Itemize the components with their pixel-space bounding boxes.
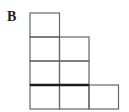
unit-square xyxy=(30,61,60,85)
staircase-squares-figure xyxy=(0,0,129,112)
unit-square xyxy=(30,13,60,37)
unit-square xyxy=(30,85,60,109)
unit-square xyxy=(89,85,119,109)
unit-square xyxy=(60,85,90,109)
figure-b-diagram: B xyxy=(0,0,129,112)
unit-square xyxy=(60,61,90,85)
unit-square xyxy=(30,37,60,61)
unit-square xyxy=(60,37,90,61)
